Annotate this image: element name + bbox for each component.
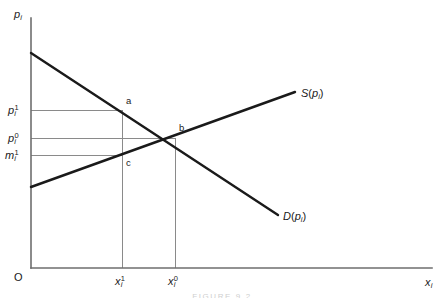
x-tick-restricted-base: x <box>115 275 121 287</box>
x-tick-restricted-sup: 1 <box>121 274 125 283</box>
y-tick-label-m-marginal: mi1 <box>5 149 19 163</box>
demand-curve-label: D(pi) <box>283 211 306 224</box>
x-tick-label-restricted: xi1 <box>115 275 125 289</box>
supply-demand-figure: pi xi O pi1 pi0 mi1 xi1 xi0 S(pi) D(pi) … <box>0 0 444 298</box>
supply-curve <box>31 92 295 187</box>
y-tick-label-p-high: pi1 <box>8 104 19 118</box>
figure-canvas <box>0 0 444 298</box>
x-axis-label-sub: i <box>431 281 433 290</box>
demand-curve <box>31 53 278 215</box>
y-tick-m-base: m <box>5 149 14 161</box>
y-tick-m-sup: 1 <box>15 148 19 157</box>
demand-curve-label-close: ) <box>302 210 306 222</box>
x-tick-eq-sup: 0 <box>174 274 178 283</box>
point-label-b: b <box>179 123 184 133</box>
y-tick-label-p-equilibrium: pi0 <box>8 132 19 146</box>
y-tick-p-eq-sup: 0 <box>14 131 18 140</box>
supply-curve-label-close: ) <box>320 87 324 99</box>
demand-curve-label-fn: D <box>283 210 291 222</box>
y-tick-p-high-sup: 1 <box>14 103 18 112</box>
point-label-c: c <box>126 158 131 168</box>
figure-caption: FIGURE 9.2 <box>0 292 444 298</box>
point-label-a: a <box>126 96 131 106</box>
axes <box>31 18 432 268</box>
y-axis-label-sub: i <box>20 13 22 22</box>
y-axis-label: pi <box>14 9 22 22</box>
x-tick-eq-base: x <box>168 275 174 287</box>
origin-label: O <box>14 272 23 283</box>
x-axis-label-base: x <box>425 276 431 288</box>
supply-curve-label: S(pi) <box>301 88 323 101</box>
x-axis-label: xi <box>425 277 432 290</box>
x-tick-label-equilibrium: xi0 <box>168 275 178 289</box>
